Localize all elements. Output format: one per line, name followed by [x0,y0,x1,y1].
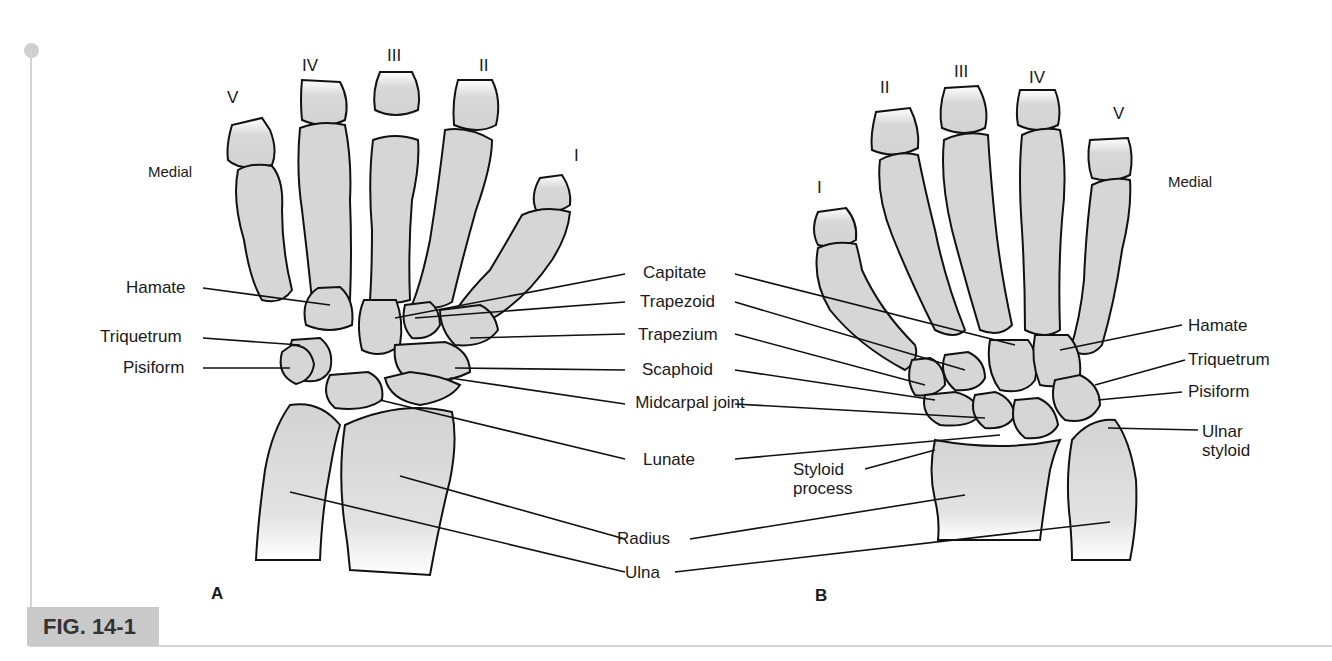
label-midcarpal-joint: Midcarpal joint [635,393,745,412]
ulna-b [1068,420,1136,560]
trapezium-b [909,358,945,396]
label-triquetrum-b: Triquetrum [1188,350,1270,369]
label-capitate: Capitate [643,263,706,282]
digit-label-v-b: V [1113,104,1124,123]
digit-label-iv-a: IV [302,56,318,75]
panel-label-a: A [211,584,223,603]
label-hamate-b: Hamate [1188,316,1248,335]
radius-a [341,408,454,575]
digit-label-i-a: I [574,146,579,165]
digit-label-iv-b: IV [1029,68,1045,87]
label-hamate-a: Hamate [126,278,186,297]
trapezoid-a [404,302,440,338]
label-pisiform-a: Pisiform [123,358,184,377]
digit-iii-a [370,72,419,303]
medial-label-a: Medial [148,162,192,181]
digit-label-ii-a: II [479,56,488,75]
digit-label-i-b: I [817,178,822,197]
digit-label-iii-a: III [387,46,401,65]
hamate-a [305,287,353,330]
label-styloid-process: Styloid process [793,460,873,498]
digit-label-iii-b: III [954,62,968,81]
triquetrum-b [1013,398,1058,438]
trapezium-a [440,305,498,345]
digit-v-a [228,118,293,301]
radius-b [932,440,1061,540]
lunate-a [326,372,382,409]
digit-label-v-a: V [227,88,238,107]
digit-v-b [1070,138,1132,354]
panel-a-drawing [228,72,571,575]
medial-label-b: Medial [1168,172,1212,191]
label-ulna: Ulna [625,563,660,582]
label-pisiform-b: Pisiform [1188,382,1249,401]
panel-label-b: B [815,586,827,605]
label-lunate: Lunate [643,450,695,469]
digit-iv-b [1017,90,1065,335]
lunate-b [973,392,1015,428]
digit-label-ii-b: II [880,78,889,97]
trapezoid-b [943,352,985,390]
label-scaphoid: Scaphoid [642,360,713,379]
label-trapezium: Trapezium [638,325,718,344]
label-ulnar-styloid: Ulnar styloid [1202,422,1272,460]
capitate-b [989,340,1037,391]
ulna-a [256,404,340,560]
pisiform-b [1053,375,1100,421]
label-trapezoid: Trapezoid [640,292,715,311]
label-triquetrum-a: Triquetrum [100,327,182,346]
digit-iv-a [298,80,351,303]
scaphoid-b [924,392,980,426]
label-radius: Radius [617,529,670,548]
